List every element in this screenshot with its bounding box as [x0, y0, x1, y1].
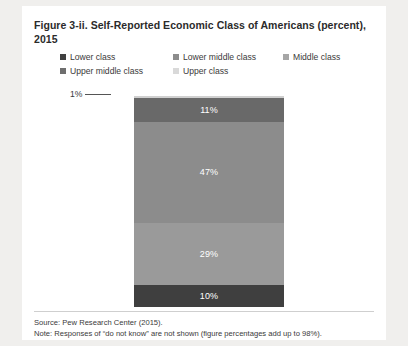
legend-swatch-icon — [283, 54, 289, 60]
legend-item-upper-class[interactable]: Upper class — [173, 66, 283, 76]
legend-label: Upper class — [183, 66, 228, 76]
legend-item-upper-middle-class[interactable]: Upper middle class — [60, 66, 173, 76]
figure-card: Figure 3-ii. Self-Reported Economic Clas… — [22, 6, 386, 340]
callout-label: 1% — [70, 89, 82, 99]
legend-item-middle-class[interactable]: Middle class — [283, 52, 378, 62]
bar-segment-middle-class[interactable]: 47% — [134, 122, 284, 223]
figure-footer: Source: Pew Research Center (2015). Note… — [34, 318, 379, 339]
note-text: Note: Responses of “do not know” are not… — [34, 329, 379, 340]
upper-class-callout: 1% — [70, 88, 111, 100]
legend-swatch-icon — [173, 68, 179, 74]
figure-page: Figure 3-ii. Self-Reported Economic Clas… — [0, 0, 408, 346]
legend-label: Lower middle class — [183, 52, 256, 62]
figure-title: Figure 3-ii. Self-Reported Economic Clas… — [34, 19, 374, 46]
bar-segment-lower-class[interactable]: 10% — [134, 285, 284, 307]
bar-segment-upper-middle-class[interactable]: 11% — [134, 98, 284, 122]
chart-plot-area: 1% 11%47%29%10% — [22, 84, 386, 309]
legend-label: Upper middle class — [70, 66, 143, 76]
legend-swatch-icon — [60, 68, 66, 74]
legend-row-1: Lower class Lower middle class Middle cl… — [60, 52, 380, 64]
source-text: Source: Pew Research Center (2015). — [34, 318, 379, 329]
legend-label: Lower class — [70, 52, 115, 62]
bar-segment-label: 10% — [200, 292, 218, 301]
chart-legend: Lower class Lower middle class Middle cl… — [60, 52, 380, 80]
bar-segment-label: 11% — [200, 106, 218, 115]
legend-label: Middle class — [293, 52, 340, 62]
bar-segment-lower-middle-class[interactable]: 29% — [134, 223, 284, 285]
callout-leader-line — [85, 94, 111, 95]
legend-item-lower-middle-class[interactable]: Lower middle class — [173, 52, 283, 62]
legend-row-2: Upper middle class Upper class — [60, 66, 380, 78]
legend-swatch-icon — [173, 54, 179, 60]
legend-item-lower-class[interactable]: Lower class — [60, 52, 173, 62]
stacked-bar[interactable]: 11%47%29%10% — [134, 96, 284, 307]
footer-divider — [34, 311, 374, 312]
bar-segment-label: 47% — [200, 168, 218, 177]
legend-swatch-icon — [60, 54, 66, 60]
bar-segment-label: 29% — [200, 250, 218, 259]
